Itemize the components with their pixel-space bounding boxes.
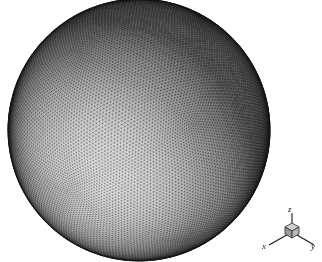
coordinate-axes-indicator: z x y [252,196,322,262]
origin-cube-icon [285,223,299,238]
axis-label-y: y [311,242,315,251]
axis-label-z: z [288,205,292,214]
axis-label-x: x [262,242,266,251]
axis-triad-svg [252,196,322,262]
figure-container: z x y [0,0,322,262]
